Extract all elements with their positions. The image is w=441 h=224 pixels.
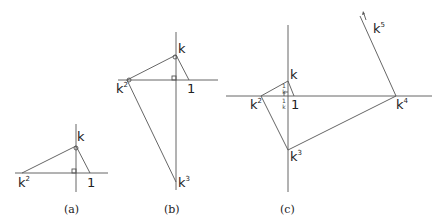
label-c-k3-base: k: [290, 149, 298, 164]
label-b-k2: k2: [116, 82, 128, 95]
label-b-k: k: [178, 42, 186, 55]
label-b-k2-base: k: [116, 81, 124, 96]
label-c-k5-sup: 5: [381, 21, 385, 29]
label-b-one: 1: [187, 82, 195, 95]
label-b-k3-base: k: [178, 175, 186, 190]
label-c-k2: k2: [250, 98, 262, 111]
caption-c: (c): [280, 203, 295, 216]
label-c-k4-base: k: [396, 97, 404, 112]
diagram-stage: k k2 1 (a) k k2 1 k3 (b) k k2 1 k3 k4 k5…: [0, 0, 441, 224]
label-b-k3: k3: [178, 176, 190, 189]
label-a-k2: k2: [18, 176, 30, 189]
label-c-inv-k-bottom: 1 k: [281, 98, 287, 110]
label-c-k2-base: k: [250, 97, 258, 112]
label-c-k4: k4: [396, 98, 408, 111]
panel-b-lines: [118, 32, 218, 190]
inv-k-top-den: k: [281, 89, 287, 95]
label-c-k3: k3: [290, 150, 302, 163]
label-a-k2-base: k: [18, 175, 26, 190]
caption-b: (b): [164, 203, 180, 216]
label-b-k2-sup: 2: [124, 81, 128, 89]
label-c-k2-sup: 2: [258, 97, 262, 105]
label-c-k5: k5: [373, 22, 385, 35]
label-c-k4-sup: 4: [404, 97, 408, 105]
label-c-one: 1: [291, 98, 299, 111]
label-b-k3-sup: 3: [186, 175, 190, 183]
label-c-inv-k-top: 1 k: [281, 83, 287, 95]
caption-a: (a): [64, 203, 79, 216]
label-c-k3-sup: 3: [298, 149, 302, 157]
label-c-k: k: [290, 68, 298, 81]
label-a-k2-sup: 2: [26, 175, 30, 183]
label-a-one: 1: [87, 176, 95, 189]
inv-k-bot-den: k: [281, 104, 287, 110]
label-a-k: k: [77, 130, 85, 143]
label-c-k5-base: k: [373, 21, 381, 36]
